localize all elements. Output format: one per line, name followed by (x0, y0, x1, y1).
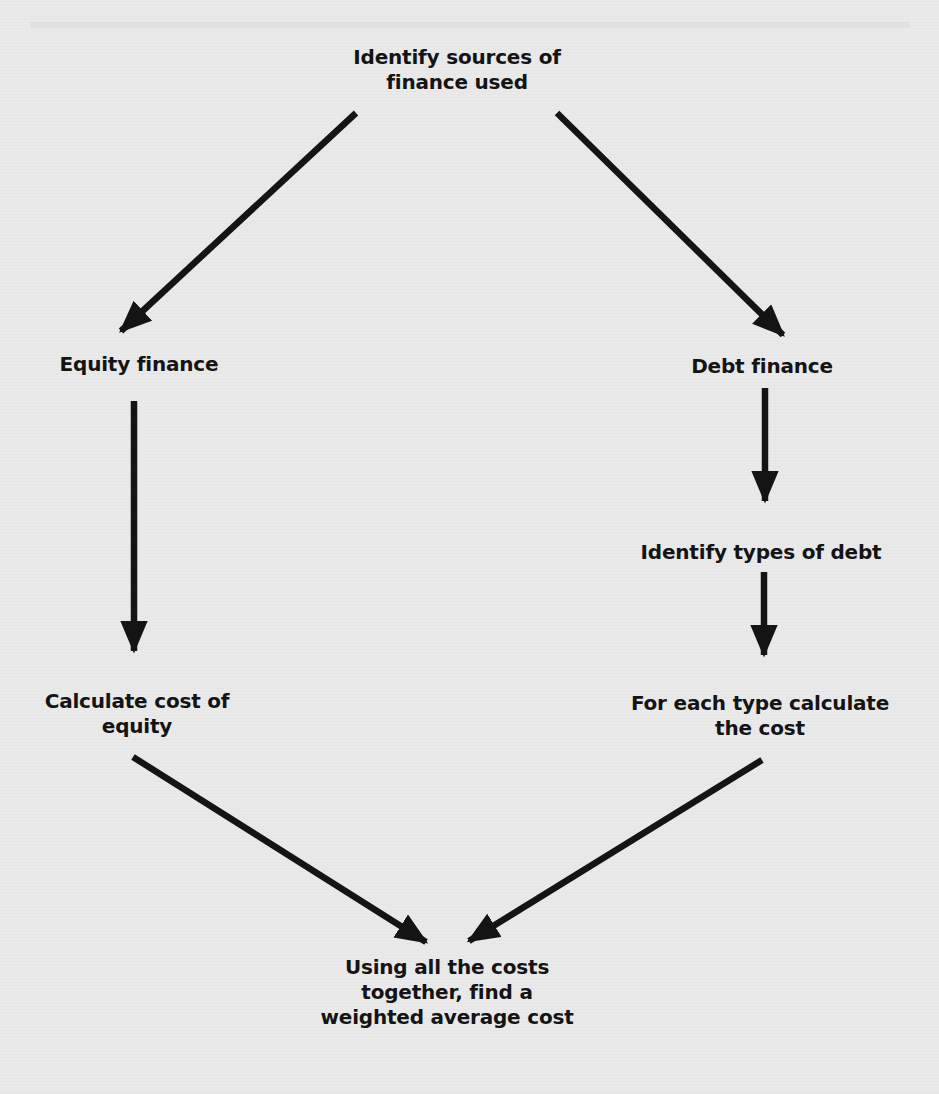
node-label-line: Identify sources of (353, 45, 560, 70)
node-label-line: Identify types of debt (641, 540, 882, 565)
node-debt-finance: Debt finance (691, 354, 833, 379)
node-label-line: For each type calculate (631, 691, 889, 716)
node-label-line: weighted average cost (320, 1005, 573, 1030)
arrow-sources-to-equity (121, 113, 356, 331)
node-label-line: finance used (353, 70, 560, 95)
node-label-line: Debt finance (691, 354, 833, 379)
node-identify-debt-types: Identify types of debt (641, 540, 882, 565)
node-label-line: Equity finance (60, 352, 219, 377)
node-label-line: Calculate cost of (45, 689, 230, 714)
node-label-line: together, find a (320, 980, 573, 1005)
node-identify-sources: Identify sources of finance used (353, 45, 560, 95)
node-label-line: Using all the costs (320, 955, 573, 980)
node-cost-of-debt: For each type calculate the cost (631, 691, 889, 741)
arrow-cost-equity-to-wacc (133, 757, 426, 942)
arrow-sources-to-debt (557, 113, 783, 335)
node-weighted-average-cost: Using all the costs together, find a wei… (320, 955, 573, 1030)
node-cost-of-equity: Calculate cost of equity (45, 689, 230, 739)
node-label-line: equity (45, 714, 230, 739)
node-label-line: the cost (631, 716, 889, 741)
node-equity-finance: Equity finance (60, 352, 219, 377)
arrow-cost-debt-to-wacc (469, 760, 762, 941)
